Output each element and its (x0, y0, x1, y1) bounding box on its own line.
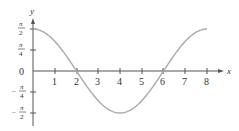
x-axis-label: x (226, 66, 231, 76)
x-tick-label: 3 (95, 76, 100, 87)
y-axis-label: y (29, 6, 34, 16)
svg-text:π: π (19, 41, 23, 49)
x-tick-label: 6 (160, 76, 165, 87)
svg-text:π: π (20, 83, 24, 91)
x-tick-label: 2 (74, 76, 79, 87)
x-tick-label: 4 (117, 76, 122, 87)
svg-text:4: 4 (20, 92, 24, 100)
y-axis-arrow-icon (31, 18, 35, 24)
y-tick-label-zero: 0 (19, 66, 24, 77)
svg-text:π: π (19, 20, 23, 28)
svg-text:−: − (12, 109, 16, 117)
svg-text:2: 2 (20, 113, 24, 121)
svg-text:2: 2 (19, 29, 23, 37)
y-tick-label-neg-pi-over-2: − π 2 (12, 104, 26, 121)
svg-text:4: 4 (19, 50, 23, 58)
cosine-chart: x y 1 2 3 4 5 6 7 8 π 2 π 4 0 − π (0, 0, 239, 131)
y-tick-label-pi-over-2: π 2 (18, 20, 25, 37)
x-tick-label: 7 (182, 76, 187, 87)
x-tick-label: 5 (139, 76, 144, 87)
x-tick-label: 8 (204, 76, 209, 87)
svg-text:π: π (20, 104, 24, 112)
x-axis-arrow-icon (218, 69, 224, 73)
svg-text:−: − (12, 88, 16, 96)
x-tick-label: 1 (52, 76, 57, 87)
y-tick-label-pi-over-4: π 4 (18, 41, 25, 58)
y-tick-label-neg-pi-over-4: − π 4 (12, 83, 26, 100)
